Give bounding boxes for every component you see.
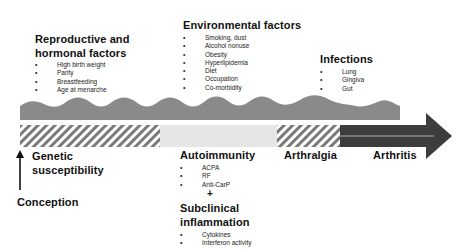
infections-list: Lung Gingiva Gut: [320, 68, 373, 93]
list-item: Gingiva: [320, 76, 373, 84]
list-item: Hyperlipidemia: [183, 59, 301, 67]
infections-heading: Infections: [320, 53, 373, 66]
list-item: Anti-CarP: [180, 181, 255, 189]
subclinical-line2: inflammation: [180, 216, 255, 229]
environmental-heading: Environmental factors: [183, 19, 301, 32]
arthralgia-segment-hatched: [277, 125, 340, 147]
environmental-factors-block: Environmental factors Smoking, dust Alco…: [183, 19, 301, 92]
reproductive-factors-block: Reproductive and hormonal factors High b…: [35, 33, 130, 94]
autoimmunity-heading: Autoimmunity: [180, 149, 255, 162]
subclinical-list: Cytokines Interferon activity: [180, 231, 255, 248]
conception-label: Conception: [17, 196, 79, 209]
reproductive-heading-line1: Reproductive and: [35, 33, 130, 46]
list-item: Obesity: [183, 51, 301, 59]
conception-arrow-up-icon: [16, 150, 24, 158]
list-item: Diet: [183, 67, 301, 75]
genetic-segment-hatched: [20, 125, 160, 147]
autoimmunity-segment: [160, 125, 277, 147]
subclinical-line1: Subclinical: [180, 202, 255, 215]
autoimmunity-block: Autoimmunity ACPA RF Anti-CarP + Subclin…: [180, 149, 255, 247]
list-item: Smoking, dust: [183, 34, 301, 42]
environmental-factors-list: Smoking, dust Alcohol nonuse Obesity Hyp…: [183, 34, 301, 92]
genetic-susceptibility-label: Genetic susceptibility: [32, 150, 104, 177]
list-item: Lung: [320, 68, 373, 76]
list-item: Cytokines: [180, 231, 255, 239]
list-item: ACPA: [180, 164, 255, 172]
list-item: Age at menarche: [35, 86, 130, 94]
list-item: Occupation: [183, 75, 301, 83]
arthralgia-label: Arthralgia: [284, 149, 337, 162]
genetic-line2: susceptibility: [32, 164, 104, 177]
reproductive-factors-list: High birth weight Parity Breastfeeding A…: [35, 61, 130, 94]
list-item: Breastfeeding: [35, 78, 130, 86]
list-item: RF: [180, 172, 255, 180]
reproductive-heading-line2: hormonal factors: [35, 47, 130, 60]
plus-sign: +: [207, 189, 255, 199]
genetic-line1: Genetic: [32, 150, 104, 163]
list-item: Gut: [320, 85, 373, 93]
list-item: Co-morbidity: [183, 84, 301, 92]
list-item: Interferon activity: [180, 239, 255, 247]
arthritis-label: Arthritis: [373, 149, 417, 162]
list-item: High birth weight: [35, 61, 130, 69]
exposure-wave-band: [20, 95, 400, 120]
infections-block: Infections Lung Gingiva Gut: [320, 53, 373, 93]
list-item: Parity: [35, 69, 130, 77]
autoimmunity-list: ACPA RF Anti-CarP: [180, 164, 255, 189]
list-item: Alcohol nonuse: [183, 42, 301, 50]
